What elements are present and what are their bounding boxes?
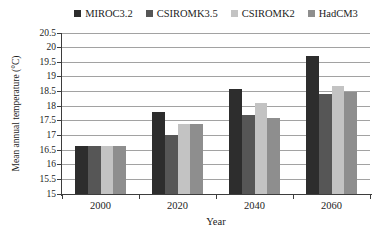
bar-csiromk2-2020 (178, 124, 191, 194)
gridline (62, 33, 370, 34)
y-tick-label: 18 (0, 101, 56, 112)
legend-item-csiromk3.5: CSIROMK3.5 (146, 8, 218, 19)
legend-item-miroc3.2: MIROC3.2 (74, 8, 133, 19)
bar-miroc3.2-2000 (75, 146, 88, 194)
legend-label: CSIROMK3.5 (157, 8, 218, 19)
bar-csiromk2-2040 (255, 103, 268, 194)
legend-label: HadCM3 (319, 8, 358, 19)
x-tick-label: 2020 (139, 199, 216, 212)
legend: MIROC3.2CSIROMK3.5CSIROMK2HadCM3 (62, 6, 370, 20)
y-tick-label: 18.5 (0, 86, 56, 97)
bar-csiromk3.5-2000 (88, 146, 101, 194)
bar-miroc3.2-2060 (306, 56, 319, 194)
y-tick-label: 19.5 (0, 57, 56, 68)
y-tick-label: 20.5 (0, 28, 56, 39)
bar-csiromk3.5-2020 (165, 135, 178, 194)
bar-hadcm3-2040 (267, 118, 280, 194)
bar-miroc3.2-2040 (229, 89, 242, 194)
x-tick-label: 2060 (293, 199, 370, 212)
figure: MIROC3.2CSIROMK3.5CSIROMK2HadCM3 Mean an… (0, 0, 379, 241)
x-axis-title: Year (62, 216, 370, 230)
x-axis-line (57, 194, 372, 196)
gridline (62, 62, 370, 63)
y-tick-label: 20 (0, 42, 56, 53)
bar-csiromk2-2000 (101, 146, 114, 194)
y-tick-label: 17.5 (0, 115, 56, 126)
y-tick-label: 16 (0, 159, 56, 170)
gridline (62, 91, 370, 92)
x-tick-label: 2000 (62, 199, 139, 212)
bar-hadcm3-2020 (190, 124, 203, 194)
y-tick-label: 15 (0, 189, 56, 200)
legend-marker-icon (231, 10, 238, 17)
y-tick-label: 16.5 (0, 145, 56, 156)
legend-item-csiromk2: CSIROMK2 (231, 8, 295, 19)
bar-csiromk3.5-2060 (319, 94, 332, 194)
y-tick-label: 15.5 (0, 174, 56, 185)
x-tick-label: 2040 (216, 199, 293, 212)
legend-marker-icon (308, 10, 315, 17)
bar-miroc3.2-2020 (152, 112, 165, 194)
legend-item-hadcm3: HadCM3 (308, 8, 358, 19)
bar-hadcm3-2000 (113, 146, 126, 194)
legend-marker-icon (74, 10, 81, 17)
legend-label: MIROC3.2 (85, 8, 133, 19)
legend-marker-icon (146, 10, 153, 17)
y-tick-label: 19 (0, 71, 56, 82)
bar-csiromk2-2060 (332, 86, 345, 194)
y-axis-line (61, 33, 63, 196)
gridline (62, 76, 370, 77)
gridline (62, 47, 370, 48)
y-tick-label: 17 (0, 130, 56, 141)
bar-csiromk3.5-2040 (242, 115, 255, 194)
legend-label: CSIROMK2 (242, 8, 295, 19)
bar-hadcm3-2060 (344, 92, 357, 194)
